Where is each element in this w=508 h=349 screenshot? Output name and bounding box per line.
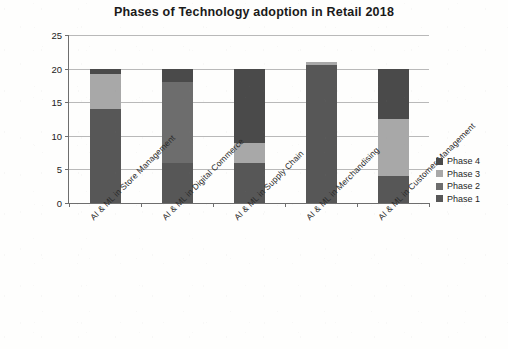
chart-title: Phases of Technology adoption in Retail … (0, 5, 508, 19)
bar-segment[interactable] (234, 143, 265, 163)
bar-segment[interactable] (378, 176, 409, 203)
y-axis-tick-mark (65, 136, 69, 137)
legend-label: Phase 3 (447, 169, 480, 179)
y-axis-tick-label: 0 (57, 198, 62, 209)
legend-item[interactable]: Phase 3 (436, 168, 506, 181)
x-axis-tick-mark (429, 203, 430, 207)
bar-segment[interactable] (90, 69, 121, 74)
bar-segment[interactable] (90, 74, 121, 109)
bar-segment[interactable] (234, 69, 265, 143)
x-axis-tick-mark (213, 203, 214, 207)
y-axis-tick-mark (65, 102, 69, 103)
y-axis-tick-label: 20 (51, 63, 62, 74)
legend-label: Phase 2 (447, 181, 480, 191)
chart-legend: Phase 4Phase 3Phase 2Phase 1 (436, 155, 506, 205)
bar-segment[interactable] (90, 109, 121, 203)
y-axis-tick-mark (65, 69, 69, 70)
bar-stack[interactable] (90, 35, 121, 203)
bar-segment[interactable] (162, 163, 193, 203)
legend-item[interactable]: Phase 1 (436, 193, 506, 206)
bar-segment[interactable] (306, 65, 337, 203)
x-axis-tick-mark (357, 203, 358, 207)
bar-segment[interactable] (378, 119, 409, 176)
legend-swatch-icon (436, 158, 443, 165)
legend-swatch-icon (436, 170, 443, 177)
legend-swatch-icon (436, 195, 443, 202)
bar-stack[interactable] (234, 35, 265, 203)
chart-container: Phases of Technology adoption in Retail … (0, 0, 508, 349)
y-axis-tick-label: 10 (51, 130, 62, 141)
bar-segment[interactable] (162, 69, 193, 82)
legend-item[interactable]: Phase 4 (436, 155, 506, 168)
bar-stack[interactable] (162, 35, 193, 203)
y-axis-tick-mark (65, 169, 69, 170)
x-axis-tick-mark (141, 203, 142, 207)
bar-stack[interactable] (378, 35, 409, 203)
x-axis-tick-mark (69, 203, 70, 207)
legend-item[interactable]: Phase 2 (436, 180, 506, 193)
legend-label: Phase 1 (447, 194, 480, 204)
y-axis-tick-label: 5 (57, 164, 62, 175)
bar-segment[interactable] (162, 82, 193, 163)
legend-label: Phase 4 (447, 156, 480, 166)
bar-segment[interactable] (234, 163, 265, 203)
x-axis-tick-mark (285, 203, 286, 207)
y-axis-tick-label: 15 (51, 97, 62, 108)
y-axis-tick-label: 25 (51, 30, 62, 41)
legend-swatch-icon (436, 183, 443, 190)
bar-stack[interactable] (306, 35, 337, 203)
bar-segment[interactable] (378, 69, 409, 119)
y-axis-tick-mark (65, 35, 69, 36)
plot-area: 0510152025 (68, 35, 429, 204)
bar-segment[interactable] (306, 62, 337, 65)
